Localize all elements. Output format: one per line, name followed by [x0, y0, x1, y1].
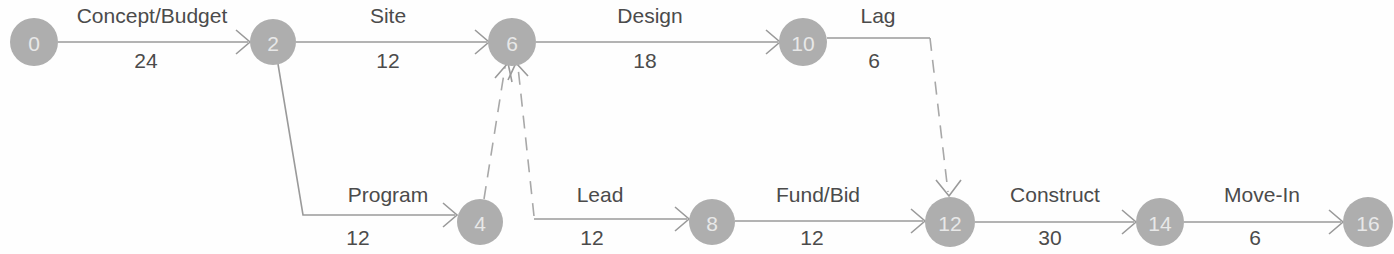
node-0[interactable]: 0 — [10, 18, 58, 66]
edge-e-fund-bid[interactable] — [735, 209, 925, 233]
node-label-6: 6 — [506, 32, 518, 55]
edge-e-dummy-4-6[interactable] — [484, 63, 512, 199]
activity-duration-e-lead: 12 — [580, 226, 603, 249]
node-label-2: 2 — [267, 32, 279, 55]
node-16[interactable]: 16 — [1343, 197, 1393, 247]
edge-e-lag[interactable] — [827, 38, 961, 196]
node-2[interactable]: 2 — [250, 19, 296, 65]
activity-name-e-fund-bid: Fund/Bid — [776, 183, 860, 206]
activity-name-e-lead: Lead — [577, 183, 624, 206]
activity-name-e-design: Design — [617, 4, 682, 27]
node-12[interactable]: 12 — [925, 197, 975, 247]
edge-dashed-path-e-lag — [930, 38, 948, 192]
node-label-14: 14 — [1148, 212, 1172, 235]
activity-name-e-program: Program — [348, 183, 429, 206]
activity-duration-e-design: 18 — [633, 49, 656, 72]
node-10[interactable]: 10 — [779, 18, 827, 66]
activity-duration-e-concept-budget: 24 — [134, 49, 158, 72]
edge-e-lead[interactable] — [534, 207, 689, 231]
activity-network-svg: 0261048121416 Concept/Budget24Site12Desi… — [0, 0, 1394, 254]
activity-duration-e-fund-bid: 12 — [800, 226, 823, 249]
node-6[interactable]: 6 — [488, 18, 536, 66]
node-label-12: 12 — [938, 212, 961, 235]
edge-e-move-in[interactable] — [1184, 210, 1343, 234]
activity-duration-e-program: 12 — [346, 226, 369, 249]
node-label-10: 10 — [791, 32, 814, 55]
arrow-head-icon-e-lag — [936, 180, 961, 196]
node-label-0: 0 — [28, 32, 40, 55]
node-label-4: 4 — [474, 212, 486, 235]
activity-duration-e-site: 12 — [376, 49, 399, 72]
edge-path-e-dummy-lead-6 — [518, 67, 534, 216]
network-diagram-canvas: 0261048121416 Concept/Budget24Site12Desi… — [0, 0, 1394, 254]
activity-duration-e-construct: 30 — [1038, 226, 1061, 249]
activity-name-e-site: Site — [370, 4, 406, 27]
edge-e-design[interactable] — [536, 30, 780, 54]
activity-name-e-concept-budget: Concept/Budget — [77, 4, 228, 27]
node-14[interactable]: 14 — [1136, 198, 1184, 246]
edge-e-dummy-lead-6[interactable] — [508, 63, 534, 216]
nodes-layer: 0261048121416 — [10, 18, 1393, 247]
node-4[interactable]: 4 — [457, 199, 503, 245]
node-8[interactable]: 8 — [689, 199, 735, 245]
activity-duration-e-lag: 6 — [868, 49, 880, 72]
activity-duration-e-move-in: 6 — [1249, 226, 1261, 249]
activity-name-e-move-in: Move-In — [1224, 183, 1300, 206]
edge-path-e-dummy-4-6 — [484, 67, 505, 199]
node-label-8: 8 — [706, 212, 718, 235]
node-label-16: 16 — [1356, 212, 1379, 235]
activity-name-e-construct: Construct — [1010, 183, 1100, 206]
activity-name-e-lag: Lag — [860, 4, 895, 27]
